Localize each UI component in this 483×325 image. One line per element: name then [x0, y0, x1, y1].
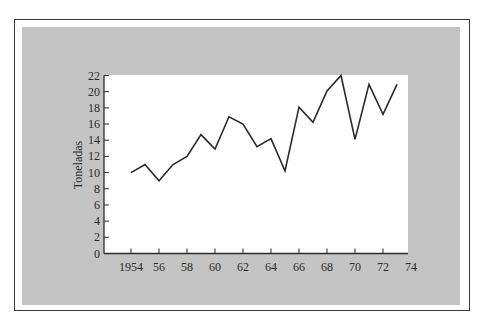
- y-axis-title: Toneladas: [71, 140, 85, 189]
- x-tick-label: 60: [209, 260, 221, 274]
- x-tick-label: 72: [377, 260, 389, 274]
- y-tick-label: 10: [88, 166, 100, 180]
- y-tick-label: 20: [88, 85, 100, 99]
- y-tick-label: 22: [88, 69, 100, 83]
- y-tick-label: 6: [94, 198, 100, 212]
- x-tick-label: 70: [349, 260, 361, 274]
- x-tick-label: 64: [265, 260, 277, 274]
- x-tick-label: 66: [293, 260, 305, 274]
- x-tick-label: 1954: [119, 260, 143, 274]
- y-tick-label: 16: [88, 117, 100, 131]
- y-tick-label: 8: [94, 182, 100, 196]
- y-tick-label: 2: [94, 230, 100, 244]
- y-tick-label: 18: [88, 101, 100, 115]
- line-chart: 0246810121416182022 19545658606264666870…: [0, 0, 483, 325]
- x-tick-label: 68: [321, 260, 333, 274]
- y-tick-label: 14: [88, 133, 100, 147]
- x-tick-label: 58: [181, 260, 193, 274]
- x-tick-label: 56: [153, 260, 165, 274]
- x-tick-label: 74: [405, 260, 417, 274]
- plot-area: [104, 75, 408, 253]
- y-tick-label: 0: [94, 247, 100, 261]
- y-tick-label: 12: [88, 149, 100, 163]
- x-tick-label: 62: [237, 260, 249, 274]
- y-tick-label: 4: [94, 214, 100, 228]
